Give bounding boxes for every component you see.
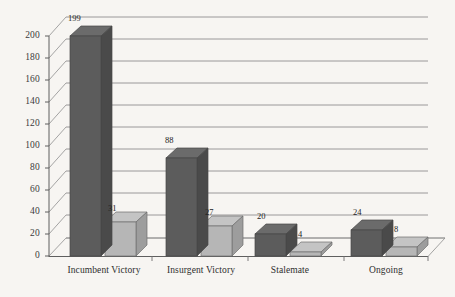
- y-tick-label-20: 20: [14, 228, 40, 238]
- value-label-ongoing-series1: 24: [353, 207, 362, 217]
- y-tick-label-160: 160: [14, 74, 40, 84]
- y-tick-label-140: 140: [14, 96, 40, 106]
- bar-incumbent-victory-series1: [70, 26, 112, 256]
- y-tick-label-180: 180: [14, 52, 40, 62]
- y-axis-ticks: [45, 36, 49, 256]
- category-label-stalemate: Stalemate: [240, 265, 340, 275]
- value-label-ongoing-series2: 8: [394, 224, 398, 234]
- value-label-insurgent-series1: 88: [165, 135, 174, 145]
- y-tick-label-80: 80: [14, 162, 40, 172]
- value-label-stalemate-series1: 20: [257, 211, 266, 221]
- bar-ongoing-series1: [351, 220, 393, 256]
- y-tick-label-100: 100: [14, 140, 40, 150]
- category-label-ongoing: Ongoing: [336, 265, 436, 275]
- value-label-incumbent-series1: 199: [68, 13, 81, 23]
- y-tick-label-120: 120: [14, 118, 40, 128]
- bar-insurgent-victory-series1: [166, 148, 208, 256]
- value-label-insurgent-series2: 27: [205, 207, 214, 217]
- bar-stalemate-series1: [255, 224, 297, 256]
- chart-plot-area: [0, 0, 455, 297]
- y-tick-label-40: 40: [14, 206, 40, 216]
- y-tick-label-200: 200: [14, 30, 40, 40]
- bar-chart: 200 180 160 140 120 100 80 60 40 20 0 19…: [0, 0, 455, 297]
- y-tick-label-60: 60: [14, 184, 40, 194]
- value-label-incumbent-series2: 31: [108, 203, 117, 213]
- y-tick-label-0: 0: [14, 250, 40, 260]
- value-label-stalemate-series2: 4: [298, 229, 302, 239]
